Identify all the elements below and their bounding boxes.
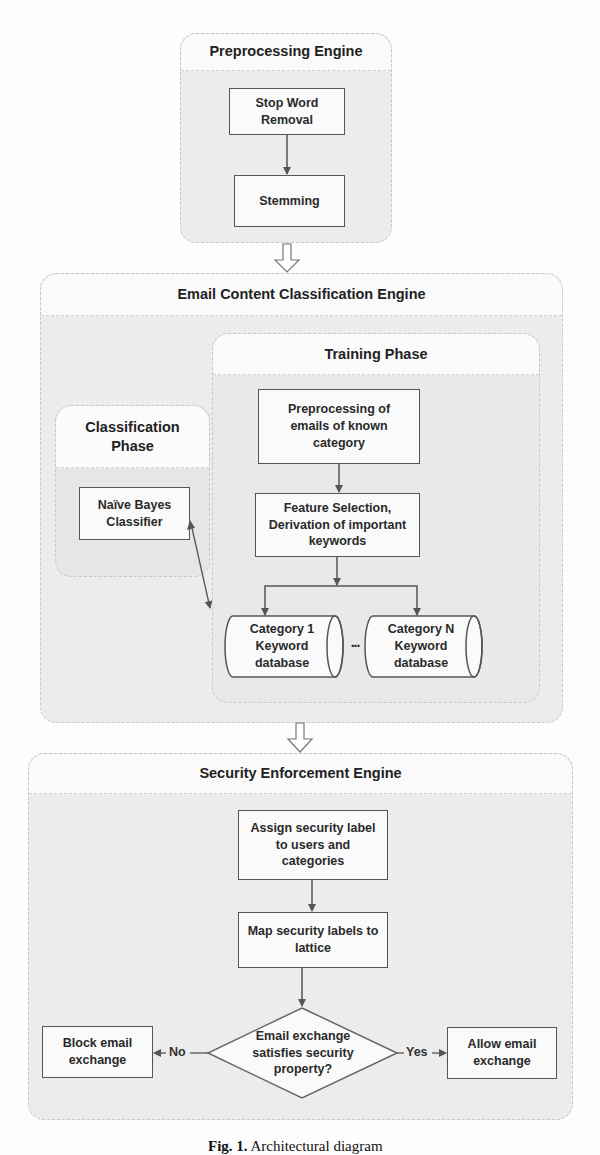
allow-email-exchange-box: Allow email exchange <box>447 1027 557 1079</box>
figure-caption-text: Architectural diagram <box>251 1138 383 1154</box>
decision-question: Email exchange satisfies security proper… <box>242 1019 364 1087</box>
block-arrow-down-icon <box>275 244 299 272</box>
block-email-exchange-box: Block email exchange <box>42 1026 153 1078</box>
yes-branch-label: Yes <box>405 1045 429 1059</box>
block-arrow-down-icon <box>288 723 312 752</box>
no-branch-label: No <box>168 1045 187 1059</box>
figure-caption-prefix: Fig. 1. <box>208 1138 248 1154</box>
figure-caption: Fig. 1. Architectural diagram <box>208 1138 383 1155</box>
